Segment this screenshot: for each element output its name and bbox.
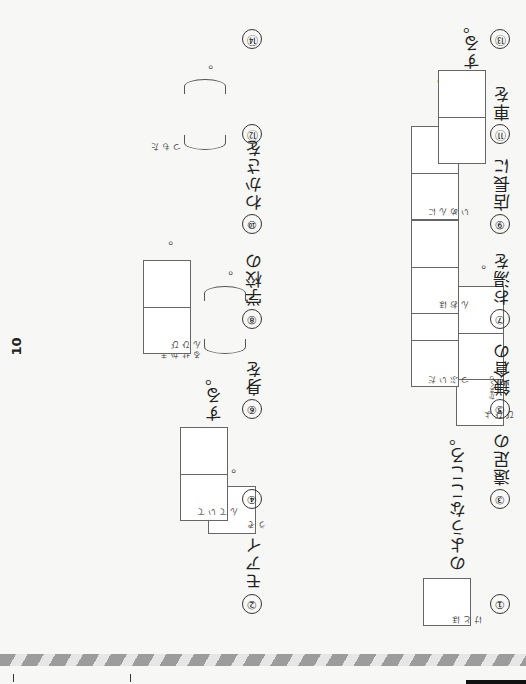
furigana-2: ぞう	[246, 521, 268, 529]
question-number-2: ②	[242, 594, 262, 614]
header-tick	[13, 674, 14, 682]
furigana-7: ほおん	[438, 275, 471, 309]
furigana-5: だいぶつ	[427, 366, 471, 384]
question-number-13: ⑬	[490, 29, 510, 49]
question-text-3: 遠足の	[492, 432, 512, 486]
question-text-1: のようなこころ。	[448, 428, 468, 572]
question-text-5: 鎌倉の	[492, 342, 512, 396]
page-number: 10	[9, 337, 24, 355]
question-number-12: ⑫	[242, 124, 262, 144]
answer-cell[interactable]	[439, 71, 485, 117]
question-text-7: お湯を	[492, 252, 512, 306]
question-number-4: ④	[242, 489, 262, 509]
question-text-2: モアイ	[244, 536, 264, 590]
period-mark: 。	[201, 63, 213, 80]
period-mark: 。	[474, 263, 486, 280]
question-number-9: ⑨	[490, 214, 510, 234]
question-number-11: ⑪	[490, 124, 510, 144]
answer-cell[interactable]	[181, 428, 227, 474]
question-text-4: する。	[204, 368, 224, 422]
answer-cell[interactable]	[439, 117, 485, 163]
furigana-1: ほとけ	[451, 616, 484, 624]
answer-box-11[interactable]	[438, 70, 486, 164]
question-number-14: ⑭	[242, 29, 262, 49]
period-mark: 。	[221, 269, 233, 286]
question-text-6: 身を	[244, 360, 264, 396]
question-number-3: ③	[490, 489, 510, 509]
worksheet-page: ① ほとけ のようなこころ。 ② モアイ ぞう 。 ③ 遠足の よびぴ 。 ④ …	[0, 0, 526, 684]
question-number-5: ⑤	[490, 399, 510, 419]
question-text-10: わかさを	[244, 139, 264, 211]
header-tick	[130, 674, 131, 682]
question-number-1: ①	[490, 594, 510, 614]
question-number-8: ⑧	[242, 309, 262, 329]
question-number-10: ⑩	[242, 214, 262, 234]
header-black-bar	[466, 680, 526, 684]
furigana-4: ていてん	[196, 498, 240, 516]
question-text-11: 車を	[492, 85, 512, 121]
answer-paren-6-close[interactable]	[204, 286, 246, 301]
question-text-11-suffix: する。	[462, 16, 482, 70]
question-text-9: 店長に	[492, 157, 512, 211]
question-number-6: ⑥	[242, 399, 262, 419]
question-text-8: 学校の	[244, 252, 264, 306]
question-number-7: ⑦	[490, 309, 510, 329]
decorative-stripe	[0, 654, 526, 666]
furigana-10: たもつ	[150, 131, 183, 151]
answer-cell[interactable]	[412, 221, 458, 267]
answer-paren-10-close[interactable]	[184, 79, 226, 94]
answer-paren-6[interactable]	[204, 339, 246, 354]
furigana-9: にんめい	[427, 198, 471, 216]
furigana-8: びひん	[170, 311, 203, 349]
answer-paren-10[interactable]	[184, 135, 226, 150]
period-mark: 。	[161, 239, 173, 256]
answer-cell[interactable]	[144, 261, 190, 307]
